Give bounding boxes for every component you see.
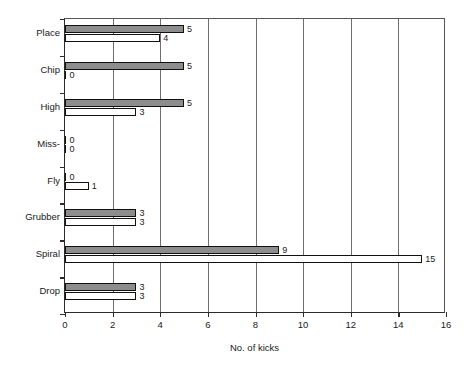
bar-series-1-drop bbox=[65, 283, 136, 291]
x-axis-tick bbox=[113, 312, 114, 317]
gridline bbox=[256, 19, 257, 312]
bar-value-label: 5 bbox=[187, 24, 192, 34]
y-axis-category-label: Place bbox=[0, 27, 60, 38]
x-axis-tick bbox=[256, 312, 257, 317]
bar-value-label: 5 bbox=[187, 61, 192, 71]
x-axis-tick bbox=[398, 312, 399, 317]
bar-series-2-grubber bbox=[65, 218, 136, 226]
y-axis-tick bbox=[60, 314, 65, 315]
y-axis-tick bbox=[60, 130, 65, 131]
gridline bbox=[351, 19, 352, 312]
bar-value-label: 0 bbox=[69, 144, 74, 154]
x-axis-tick bbox=[65, 312, 66, 317]
bar-value-label: 3 bbox=[139, 217, 144, 227]
y-axis-category-label: Grubber bbox=[0, 211, 60, 222]
y-axis-tick bbox=[60, 203, 65, 204]
y-axis-category-label: Drop bbox=[0, 285, 60, 296]
y-axis-tick bbox=[60, 167, 65, 168]
x-axis-tick bbox=[208, 312, 209, 317]
bar-series-1-chip bbox=[65, 62, 184, 70]
x-axis-tick-label: 16 bbox=[441, 319, 452, 330]
y-axis-category-label: Chip bbox=[0, 63, 60, 74]
bar-value-label: 0 bbox=[69, 70, 74, 80]
y-axis-category-label: Spiral bbox=[0, 248, 60, 259]
bar-chart: 024681012141655500393403013153 PlaceChip… bbox=[0, 0, 471, 368]
x-axis-tick-label: 10 bbox=[298, 319, 309, 330]
y-axis-tick bbox=[60, 277, 65, 278]
bar-value-label: 9 bbox=[282, 245, 287, 255]
bar-value-label: 15 bbox=[425, 254, 435, 264]
bar-series-2-place bbox=[65, 34, 160, 42]
x-axis-tick-label: 4 bbox=[158, 319, 163, 330]
y-axis-category-label: Fly bbox=[0, 174, 60, 185]
bar-series-2-chip bbox=[65, 71, 66, 79]
y-axis-tick bbox=[60, 93, 65, 94]
gridline bbox=[208, 19, 209, 312]
bar-value-label: 5 bbox=[187, 98, 192, 108]
bar-series-1-grubber bbox=[65, 209, 136, 217]
bar-series-2-fly bbox=[65, 182, 89, 190]
x-axis-tick-label: 14 bbox=[393, 319, 404, 330]
x-axis-tick-label: 8 bbox=[253, 319, 258, 330]
gridline bbox=[398, 19, 399, 312]
x-axis-tick bbox=[160, 312, 161, 317]
bar-value-label: 3 bbox=[139, 107, 144, 117]
bar-series-1-high bbox=[65, 99, 184, 107]
y-axis-tick bbox=[60, 56, 65, 57]
y-axis-tick bbox=[60, 19, 65, 20]
x-axis-tick-label: 0 bbox=[62, 319, 67, 330]
bar-value-label: 0 bbox=[69, 172, 74, 182]
x-axis-tick bbox=[446, 312, 447, 317]
x-axis-tick bbox=[351, 312, 352, 317]
bar-value-label: 4 bbox=[163, 33, 168, 43]
bar-series-2-high bbox=[65, 108, 136, 116]
bar-value-label: 1 bbox=[92, 181, 97, 191]
x-axis-tick-label: 6 bbox=[205, 319, 210, 330]
bar-series-1-miss- bbox=[65, 136, 66, 144]
y-axis-category-label: Miss- bbox=[0, 137, 60, 148]
gridline bbox=[303, 19, 304, 312]
bar-series-2-spiral bbox=[65, 255, 422, 263]
x-axis-tick-label: 2 bbox=[110, 319, 115, 330]
bar-value-label: 3 bbox=[139, 291, 144, 301]
x-axis-title: No. of kicks bbox=[230, 342, 279, 353]
bar-series-1-place bbox=[65, 25, 184, 33]
x-axis-tick bbox=[303, 312, 304, 317]
y-axis-tick bbox=[60, 240, 65, 241]
plot-area: 024681012141655500393403013153 bbox=[64, 18, 445, 313]
x-axis-tick-label: 12 bbox=[345, 319, 356, 330]
bar-series-1-spiral bbox=[65, 246, 279, 254]
bar-series-1-fly bbox=[65, 173, 66, 181]
bar-series-2-drop bbox=[65, 292, 136, 300]
bar-series-2-miss- bbox=[65, 145, 66, 153]
y-axis-category-label: High bbox=[0, 100, 60, 111]
